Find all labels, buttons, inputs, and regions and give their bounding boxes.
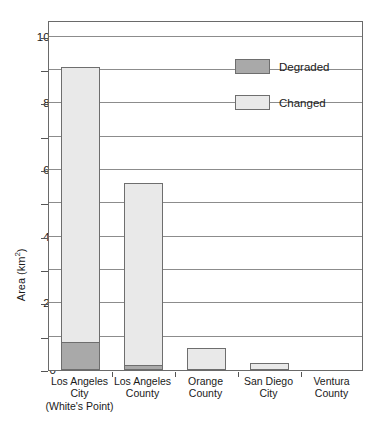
- y-axis-tick: [41, 38, 48, 39]
- bar-segment-degraded: [124, 365, 163, 370]
- y-axis-tick-minor: [41, 71, 48, 72]
- bar-segment-degraded: [61, 342, 100, 370]
- y-axis-tick: [41, 104, 48, 105]
- legend-swatch-changed-icon: [235, 95, 270, 110]
- legend-item-changed: Changed: [235, 89, 363, 116]
- chart-legend: Degraded Changed: [235, 53, 363, 125]
- x-axis-category-line2: County: [294, 388, 369, 400]
- y-axis-title-superscript: 2: [13, 252, 22, 256]
- bar-stack: [187, 348, 226, 370]
- legend-swatch-degraded-icon: [235, 59, 270, 74]
- y-axis-tick-minor: [41, 204, 48, 205]
- bar-segment-changed: [124, 183, 163, 365]
- y-axis-tick: [41, 171, 48, 172]
- bar-segment-changed: [250, 363, 289, 370]
- bar-stack: [124, 183, 163, 370]
- y-axis-tick: [41, 238, 48, 239]
- chart-figure: Area (km2) 020406080100 Degraded Changed…: [0, 0, 378, 425]
- bar-stack: [250, 363, 289, 370]
- y-axis-tick-minor: [41, 338, 48, 339]
- x-axis-category-label: VenturaCounty: [294, 376, 369, 399]
- y-axis-tick: [41, 371, 48, 372]
- bar-segment-changed: [61, 67, 100, 342]
- bar-group: [124, 183, 163, 370]
- bar-group: [250, 363, 289, 370]
- x-axis-labels: Los AngelesCity(White's Point)Los Angele…: [48, 376, 363, 424]
- y-axis-title-text: Area (km: [15, 257, 27, 302]
- y-axis-title-suffix: ): [15, 248, 27, 252]
- bar-group: [187, 348, 226, 370]
- x-axis-category-line3: (White's Point): [42, 401, 117, 413]
- bar-stack: [61, 67, 100, 370]
- legend-item-degraded: Degraded: [235, 53, 363, 80]
- y-axis-tick: [41, 304, 48, 305]
- legend-label-changed: Changed: [279, 97, 326, 109]
- gridline: [49, 36, 362, 37]
- bar-group: [61, 67, 100, 370]
- legend-label-degraded: Degraded: [279, 61, 330, 73]
- y-axis-tick-minor: [41, 138, 48, 139]
- x-axis-category-line1: Ventura: [294, 376, 369, 388]
- y-axis-tick-minor: [41, 271, 48, 272]
- plot-area: Degraded Changed: [48, 21, 363, 371]
- bar-segment-changed: [187, 348, 226, 370]
